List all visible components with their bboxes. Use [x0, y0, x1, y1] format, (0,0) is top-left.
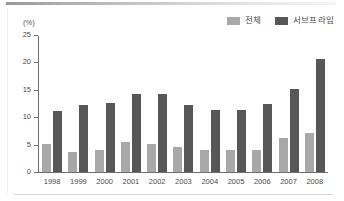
- bar-group: 2005: [223, 36, 249, 172]
- bar-total[interactable]: [95, 150, 104, 172]
- bar-total[interactable]: [305, 133, 314, 172]
- bar-subprime[interactable]: [106, 103, 115, 172]
- x-axis-tick-label: 2006: [254, 177, 271, 186]
- x-axis-tick-label: 1999: [70, 177, 87, 186]
- bar-total[interactable]: [147, 144, 156, 172]
- x-axis-tick-label: 2004: [201, 177, 218, 186]
- chart-legend: 전체 서브프라임: [227, 16, 334, 25]
- bar-total[interactable]: [42, 144, 51, 172]
- bars-layer: 1998199920002001200220032004200520062007…: [39, 36, 328, 172]
- bar-subprime[interactable]: [237, 110, 246, 172]
- y-axis-tick: 5: [34, 145, 38, 146]
- y-axis-tick: 15: [34, 90, 38, 91]
- bar-group: 2003: [170, 36, 196, 172]
- y-axis-tick-label: 20: [23, 57, 31, 66]
- y-axis-tick: 25: [34, 35, 38, 36]
- y-axis-tick-label: 15: [23, 85, 31, 94]
- legend-item-subprime[interactable]: 서브프라임: [275, 16, 334, 25]
- bar-total[interactable]: [226, 150, 235, 172]
- y-axis-tick: 20: [34, 62, 38, 63]
- y-axis-tick-label: 10: [23, 112, 31, 121]
- bar-group: 2008: [302, 36, 328, 172]
- bar-group: 2002: [144, 36, 170, 172]
- legend-item-total[interactable]: 전체: [227, 16, 261, 25]
- bar-subprime[interactable]: [158, 94, 167, 172]
- legend-swatch-icon: [275, 17, 288, 25]
- bar-group: 2000: [92, 36, 118, 172]
- y-axis-tick-label: 0: [27, 167, 31, 176]
- bar-group: 2004: [197, 36, 223, 172]
- x-axis-tick-label: 2007: [280, 177, 297, 186]
- bar-subprime[interactable]: [132, 94, 141, 172]
- y-axis-tick-label: 25: [23, 30, 31, 39]
- y-axis-unit-label: (%): [23, 18, 35, 27]
- bar-group: 2006: [249, 36, 275, 172]
- legend-label-subprime: 서브프라임: [293, 16, 334, 25]
- bar-group: 1998: [39, 36, 65, 172]
- bar-subprime[interactable]: [79, 105, 88, 172]
- bar-total[interactable]: [252, 150, 261, 172]
- bar-total[interactable]: [173, 147, 182, 172]
- legend-label-total: 전체: [245, 16, 261, 25]
- x-axis-line: [38, 172, 328, 173]
- x-axis-tick-label: 1998: [44, 177, 61, 186]
- bar-subprime[interactable]: [53, 111, 62, 172]
- bar-group: 1999: [65, 36, 91, 172]
- bar-subprime[interactable]: [316, 59, 325, 172]
- bar-subprime[interactable]: [290, 89, 299, 172]
- y-axis-tick-label: 5: [27, 140, 31, 149]
- bar-subprime[interactable]: [184, 105, 193, 172]
- bar-total[interactable]: [200, 150, 209, 172]
- bar-total[interactable]: [68, 152, 77, 172]
- x-axis-tick-label: 2002: [149, 177, 166, 186]
- y-axis-tick: 0: [34, 172, 38, 173]
- x-axis-tick-label: 2003: [175, 177, 192, 186]
- y-axis-tick: 10: [34, 117, 38, 118]
- bar-total[interactable]: [279, 138, 288, 172]
- x-axis-tick-label: 2001: [123, 177, 140, 186]
- legend-swatch-icon: [227, 17, 240, 25]
- bar-group: 2007: [275, 36, 301, 172]
- plot-area: 0510152025 19981999200020012002200320042…: [38, 36, 328, 173]
- x-axis-tick-label: 2005: [228, 177, 245, 186]
- x-axis-tick-label: 2008: [306, 177, 323, 186]
- bar-total[interactable]: [121, 142, 130, 172]
- x-axis-tick-label: 2000: [96, 177, 113, 186]
- bar-subprime[interactable]: [211, 110, 220, 172]
- bar-chart-figure: (%) 전체 서브프라임 0510152025 1998199920002001…: [0, 0, 344, 201]
- bar-group: 2001: [118, 36, 144, 172]
- bar-subprime[interactable]: [263, 104, 272, 172]
